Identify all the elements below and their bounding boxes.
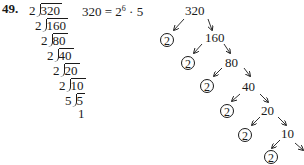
tree-node: 40: [242, 80, 255, 94]
tree-node: 80: [225, 56, 238, 70]
prime-factor-circle: 2: [264, 150, 278, 164]
tree-node: 10: [281, 127, 294, 141]
prime-factor-circle: 2: [181, 56, 195, 70]
prime-factor-circle: 2: [200, 79, 214, 93]
prime-factor-circle: 2: [238, 128, 252, 142]
tree-node: 20: [261, 104, 274, 118]
prime-factor-circle: 2: [220, 104, 234, 118]
factor-tree-arrows: [0, 0, 304, 165]
tree-node: 160: [205, 31, 225, 45]
tree-node: 320: [185, 4, 205, 18]
prime-factor-circle: 2: [160, 33, 174, 47]
